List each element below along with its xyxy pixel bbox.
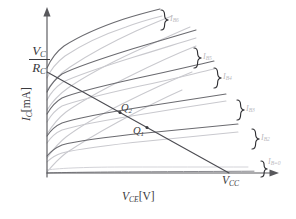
load-line <box>47 72 229 173</box>
y-intercept-numerator: VC <box>24 44 54 58</box>
q1-point <box>146 126 149 129</box>
curve-label-ib4: IB4 <box>223 73 232 82</box>
brace-ib4 <box>214 68 221 88</box>
x-axis-intercept-label: VCC <box>222 175 239 187</box>
ib-curve-dark-5 <box>47 9 160 68</box>
curve-group-light <box>47 16 248 172</box>
q1-label: Q1 <box>133 126 144 137</box>
load-line-group <box>47 72 229 173</box>
ib-curve-light-2 <box>47 72 192 158</box>
x-axis-arrow-icon <box>270 169 280 176</box>
curve-label-ib0: IB=0 <box>268 158 281 167</box>
curve-label-ib6: IB6 <box>170 15 179 24</box>
ib-curve-light-6 <box>47 167 248 170</box>
ib-curve-light-5 <box>47 16 172 90</box>
y-axis-arrow-icon <box>43 7 50 17</box>
x-axis-title: VCE[V] <box>122 191 155 203</box>
y-axis-title: IC[mA] <box>21 69 33 139</box>
curve-label-ib5: IB5 <box>203 53 212 62</box>
curve-label-ib2: IB2 <box>261 134 270 143</box>
curve-label-ib3: IB3 <box>246 105 255 114</box>
figure-root: VC RC IC[mA] VCE[V] VCC Q2 Q1 IB6 IB5 IB… <box>0 0 296 219</box>
brace-ib0 <box>261 161 267 177</box>
curve-group-dark <box>47 9 254 173</box>
brace-ib3 <box>237 100 244 120</box>
q2-label: Q2 <box>121 103 132 114</box>
brace-ib2 <box>252 129 259 149</box>
brace-group <box>161 10 267 177</box>
